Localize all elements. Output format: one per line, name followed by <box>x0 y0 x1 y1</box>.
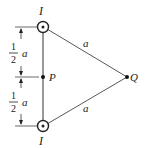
dim-lower-label: 1 2 a <box>9 90 28 114</box>
wire-bottom <box>38 121 49 132</box>
point-p-label: P <box>48 71 56 83</box>
svg-text:1: 1 <box>11 90 16 101</box>
svg-text:a: a <box>22 96 28 108</box>
point-q-label: Q <box>130 71 138 83</box>
wire-bottom-label: I <box>38 134 44 148</box>
wire-top-label: I <box>38 4 44 18</box>
side-bottom-line <box>47 77 127 124</box>
svg-text:2: 2 <box>11 54 16 65</box>
side-top-label: a <box>83 37 89 49</box>
svg-text:2: 2 <box>11 103 16 114</box>
wire-top <box>38 22 49 33</box>
side-bottom-label: a <box>83 102 89 114</box>
dim-upper-label: 1 2 a <box>9 41 28 65</box>
wire-triangle-diagram: I I P Q a a 1 2 a 1 2 a <box>0 0 149 148</box>
point-p-dot <box>41 75 45 79</box>
svg-text:1: 1 <box>11 41 16 52</box>
point-q-dot <box>125 75 129 79</box>
svg-text:a: a <box>22 47 28 59</box>
